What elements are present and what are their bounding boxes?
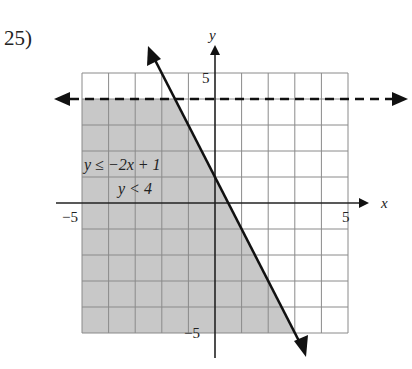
arrow-left-icon: [54, 92, 70, 106]
tick-label-x-max: 5: [342, 209, 350, 225]
y-axis-label: y: [207, 27, 216, 43]
x-axis-label: x: [380, 195, 388, 211]
tick-label-y-max: 5: [202, 70, 210, 86]
tick-label-x-min: −5: [62, 209, 78, 225]
arrow-right-icon: [392, 92, 408, 106]
arrow-down-right-icon: [294, 335, 308, 357]
tick-label-y-min: −5: [184, 325, 200, 341]
inequality-graph: y x −5 5 5 −5 y ≤ −2x + 1 y < 4: [0, 0, 412, 369]
inequality-label-1: y ≤ −2x + 1: [82, 156, 161, 174]
arrow-up-left-icon: [147, 46, 161, 66]
inequality-label-2: y < 4: [116, 180, 152, 198]
